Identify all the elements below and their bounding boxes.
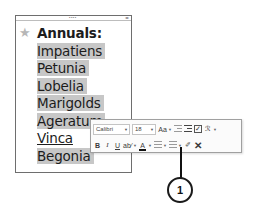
list-item-text: Begonia <box>37 148 94 164</box>
highlight-dropdown[interactable]: ▼ <box>133 140 137 151</box>
numbered-list-icon <box>169 141 177 149</box>
list-item[interactable]: Marigolds <box>37 95 105 113</box>
list-item-text: Vinca <box>37 130 73 146</box>
chevron-down-icon: ▼ <box>124 127 128 132</box>
list-item-text: Impatiens <box>37 43 105 59</box>
bold-button[interactable]: B <box>93 140 102 151</box>
checkbox-icon: ✓ <box>194 125 202 133</box>
list-item[interactable]: Lobelia <box>37 78 105 96</box>
delete-button[interactable]: ✕ <box>193 140 202 151</box>
bullet-list-icon <box>154 141 162 149</box>
highlighter-icon: ab⁄ <box>123 142 132 149</box>
resize-handle-icon[interactable]: ◂▸ <box>125 16 129 20</box>
change-case-button[interactable]: Aa <box>158 124 167 135</box>
styles-dropdown[interactable]: ▼ <box>213 124 217 135</box>
drag-handle-icon[interactable]: •••• <box>69 16 77 20</box>
italic-button[interactable]: I <box>103 140 112 151</box>
mini-toolbar-row-1: Calibri ▼ 18 ▼ Aa ▼ ✓ ℛ ▼ <box>93 122 239 136</box>
font-size-dropdown[interactable]: 18 ▼ <box>132 124 156 135</box>
callout-number: 1 <box>177 184 183 196</box>
list-item[interactable]: Impatiens <box>37 43 105 61</box>
chevron-down-icon: ▼ <box>150 127 154 132</box>
list-item-text: Lobelia <box>37 78 87 94</box>
list-item-text: Marigolds <box>37 95 104 111</box>
styles-button[interactable]: ℛ <box>203 124 212 135</box>
list-item[interactable]: Petunia <box>37 60 105 78</box>
heading-text: Annuals: <box>37 25 102 41</box>
note-container-titlebar[interactable]: •••• ◂▸ <box>16 16 131 21</box>
close-icon: ✕ <box>194 140 202 151</box>
list-heading[interactable]: Annuals: <box>37 25 105 43</box>
increase-indent-icon <box>184 125 192 133</box>
decrease-indent-button[interactable] <box>173 124 182 135</box>
font-color-swatch <box>139 149 146 151</box>
highlight-button[interactable]: ab⁄ <box>123 140 132 151</box>
bullets-dropdown[interactable]: ▼ <box>163 140 167 151</box>
font-name-dropdown[interactable]: Calibri ▼ <box>93 124 130 135</box>
font-color-dropdown[interactable]: ▼ <box>148 140 152 151</box>
font-color-icon: A <box>140 142 145 149</box>
bullets-button[interactable] <box>153 140 162 151</box>
mini-toolbar: Calibri ▼ 18 ▼ Aa ▼ ✓ ℛ ▼ B I U ab⁄ ▼ A … <box>90 119 242 153</box>
font-size-value: 18 <box>135 126 142 132</box>
list-item-text: Petunia <box>37 60 89 76</box>
font-name-value: Calibri <box>96 126 113 132</box>
underline-button[interactable]: U <box>113 140 122 151</box>
styles-icon: ℛ <box>205 125 211 133</box>
increase-indent-button[interactable] <box>183 124 192 135</box>
callout-leader-line <box>180 147 182 178</box>
checkbox-tag-button[interactable]: ✓ <box>193 124 202 135</box>
callout-marker: 1 <box>167 177 193 203</box>
clear-formatting-button[interactable]: ✐ <box>183 140 192 151</box>
mini-toolbar-row-2: B I U ab⁄ ▼ A ▼ ▼ ▼ ✐ ✕ <box>93 138 239 152</box>
change-case-icon: Aa <box>158 126 167 133</box>
star-icon: ★ <box>19 26 31 39</box>
font-color-button[interactable]: A <box>138 140 147 151</box>
decrease-indent-icon <box>174 125 182 133</box>
change-case-dropdown[interactable]: ▼ <box>168 124 172 135</box>
numbering-button[interactable] <box>168 140 177 151</box>
eraser-icon: ✐ <box>185 141 191 149</box>
